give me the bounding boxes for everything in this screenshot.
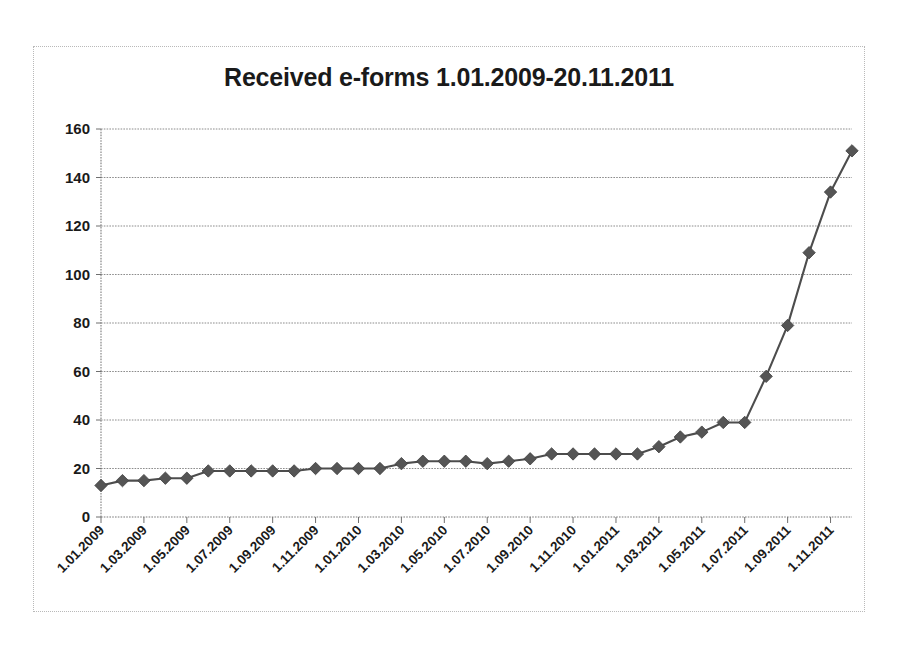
y-axis-tick-label: 40 <box>73 411 90 428</box>
data-point-marker <box>159 472 171 484</box>
series-line <box>101 151 852 486</box>
data-point-marker <box>224 465 236 477</box>
data-point-marker <box>781 319 793 331</box>
data-point-marker <box>824 186 836 198</box>
y-axis-tick-label: 0 <box>82 508 90 525</box>
data-point-marker <box>653 440 665 452</box>
x-axis-tick-label: 1.11.2011 <box>785 522 837 574</box>
data-point-marker <box>524 453 536 465</box>
data-point-marker <box>266 465 278 477</box>
data-point-marker <box>502 455 514 467</box>
y-axis-tick-label: 20 <box>73 460 90 477</box>
data-point-marker <box>417 455 429 467</box>
data-point-marker <box>138 474 150 486</box>
data-point-marker <box>331 462 343 474</box>
line-chart-svg: 020406080100120140160 1.01.20091.03.2009… <box>34 47 866 613</box>
data-point-marker <box>460 455 472 467</box>
y-axis-labels-group: 020406080100120140160 <box>65 120 90 525</box>
series-markers <box>95 145 858 492</box>
x-axis-tick-label: 1.09.2010 <box>483 523 536 576</box>
x-axis-labels-group: 1.01.20091.03.20091.05.20091.07.20091.09… <box>54 522 837 575</box>
data-point-marker <box>374 462 386 474</box>
data-point-marker <box>352 462 364 474</box>
data-point-marker <box>760 370 772 382</box>
data-point-marker <box>696 426 708 438</box>
data-point-marker <box>610 448 622 460</box>
x-axis-tick-label: 1.09.2009 <box>226 523 279 576</box>
data-point-marker <box>717 416 729 428</box>
data-point-marker <box>245 465 257 477</box>
plot-area: 020406080100120140160 1.01.20091.03.2009… <box>34 47 866 613</box>
data-point-marker <box>631 448 643 460</box>
data-point-marker <box>181 472 193 484</box>
x-axis-tick-label: 1.09.2011 <box>741 522 794 575</box>
series-group <box>95 145 858 492</box>
data-point-marker <box>95 479 107 491</box>
data-point-marker <box>674 431 686 443</box>
data-point-marker <box>288 465 300 477</box>
y-axis-tick-label: 160 <box>65 120 90 137</box>
data-point-marker <box>481 457 493 469</box>
data-point-marker <box>116 474 128 486</box>
data-point-marker <box>438 455 450 467</box>
data-point-marker <box>739 416 751 428</box>
data-point-marker <box>803 246 815 258</box>
data-point-marker <box>567 448 579 460</box>
y-axis-tick-label: 140 <box>65 169 90 186</box>
y-axis-tick-label: 80 <box>73 314 90 331</box>
data-point-marker <box>202 465 214 477</box>
data-point-marker <box>545 448 557 460</box>
data-point-marker <box>846 145 858 157</box>
data-point-marker <box>309 462 321 474</box>
chart-frame: Received e-forms 1.01.2009-20.11.2011 02… <box>33 46 865 612</box>
y-axis-tick-label: 60 <box>73 363 90 380</box>
data-point-marker <box>395 457 407 469</box>
y-axis-tick-label: 100 <box>65 266 90 283</box>
data-point-marker <box>588 448 600 460</box>
gridlines-group <box>101 129 852 517</box>
y-axis-tick-label: 120 <box>65 217 90 234</box>
